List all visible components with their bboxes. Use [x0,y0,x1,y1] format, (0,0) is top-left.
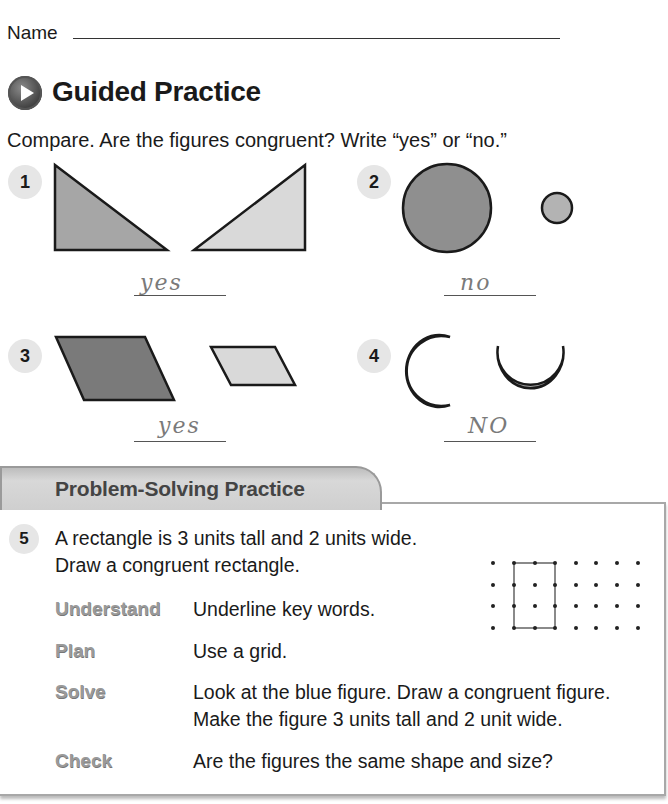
problem-solving-title: Problem-Solving Practice [55,477,305,501]
step-text-understand: Underline key words. [193,598,375,621]
exercise-number-2: 2 [357,165,391,199]
exercise-number-5: 5 [9,524,39,554]
step-text-check: Are the figures the same shape and size? [193,750,553,773]
step-label-plan: Plan [55,640,95,662]
problem-line-1: A rectangle is 3 units tall and 2 units … [55,525,417,552]
parallelograms-figure [50,332,300,407]
exercise-number-1: 1 [8,165,42,199]
answer-line-1 [134,295,226,296]
problem-line-2: Draw a congruent rectangle. [55,552,300,579]
answer-line-4 [444,441,536,442]
answer-2[interactable]: no [460,270,491,295]
circles-figure [400,158,580,258]
crescents-figure [400,332,570,412]
blue-rectangle [514,563,555,628]
triangles-figure [50,160,310,255]
circle-small [542,193,572,223]
instructions: Compare. Are the figures congruent? Writ… [7,129,507,152]
answer-3[interactable]: yes [158,413,201,438]
crescent-left [406,335,450,407]
triangle-left [55,165,167,250]
answer-line-3 [134,441,226,442]
crescent-bottom [498,346,564,388]
answer-1[interactable]: yes [140,270,183,295]
answer-4[interactable]: NO [468,413,509,438]
play-icon [8,76,42,110]
section-title: Guided Practice [52,76,261,108]
parallelogram-small [211,347,295,385]
dot-grid[interactable] [440,540,668,640]
step-text-plan: Use a grid. [193,640,287,663]
circle-large [403,164,491,252]
name-input-line[interactable] [73,38,560,39]
step-text-solve-1: Look at the blue figure. Draw a congruen… [193,681,610,704]
parallelogram-large [56,337,174,400]
step-label-check: Check [55,750,112,772]
exercise-number-4: 4 [357,339,391,373]
step-label-solve: Solve [55,681,106,703]
step-label-understand: Understand [55,598,161,620]
answer-line-2 [444,295,536,296]
triangle-right [194,165,305,250]
name-label: Name [7,22,58,44]
exercise-number-3: 3 [8,339,42,373]
step-text-solve-2: Make the figure 3 units tall and 2 unit … [193,708,563,731]
